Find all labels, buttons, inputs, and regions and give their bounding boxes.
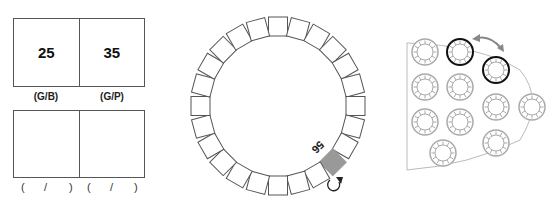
ring-cluster-diagram <box>0 0 560 207</box>
highlighted-ring <box>483 57 509 83</box>
ring <box>447 74 473 100</box>
ring <box>447 109 473 135</box>
ring <box>430 140 456 166</box>
ring <box>412 74 438 100</box>
ring <box>412 109 438 135</box>
ring <box>412 39 438 65</box>
double-arrow-icon <box>472 34 504 52</box>
ring <box>483 130 509 156</box>
ring <box>483 94 509 120</box>
highlighted-ring <box>447 39 473 65</box>
ring <box>519 94 545 120</box>
